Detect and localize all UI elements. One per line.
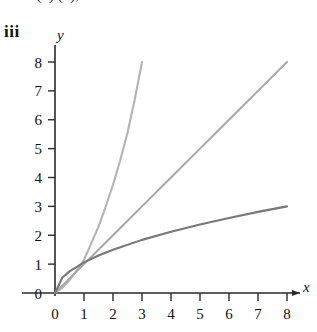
- x-axis-arrow-icon: [292, 290, 300, 296]
- x-tick-label: 7: [254, 306, 262, 322]
- curve-straight-line: [55, 62, 287, 293]
- y-tick-labels: 012345678: [35, 55, 43, 302]
- x-tick-label: 4: [167, 306, 175, 322]
- y-tick-label: 2: [35, 228, 43, 244]
- x-tick-label: 6: [225, 306, 233, 322]
- chart-figure: 012345678 y 012345678 x: [0, 0, 317, 332]
- data-curves: [55, 62, 287, 293]
- y-tick-label: 1: [35, 257, 43, 273]
- y-tick-label: 6: [35, 112, 43, 128]
- curve-steep-convex-curve: [55, 62, 142, 293]
- curve-concave-root-curve: [55, 206, 287, 293]
- y-axis-label: y: [55, 27, 64, 43]
- x-tick-label: 0: [51, 306, 59, 322]
- x-axis-label: x: [302, 279, 310, 295]
- x-tick-labels: 012345678: [51, 306, 291, 322]
- x-tick-label: 3: [138, 306, 146, 322]
- y-tick-label: 7: [35, 83, 43, 99]
- x-tick-marks: [84, 293, 287, 301]
- y-axis-group: 012345678 y: [35, 27, 65, 302]
- y-tick-label: 4: [35, 170, 43, 186]
- chart-svg: 012345678 y 012345678 x: [0, 0, 317, 332]
- y-tick-label: 8: [35, 55, 43, 71]
- x-tick-label: 1: [80, 306, 88, 322]
- y-tick-label: 3: [35, 199, 43, 215]
- x-tick-label: 2: [109, 306, 117, 322]
- x-tick-label: 8: [283, 306, 291, 322]
- y-tick-marks: [48, 62, 55, 264]
- y-tick-label: 5: [35, 141, 43, 157]
- x-tick-label: 5: [196, 306, 204, 322]
